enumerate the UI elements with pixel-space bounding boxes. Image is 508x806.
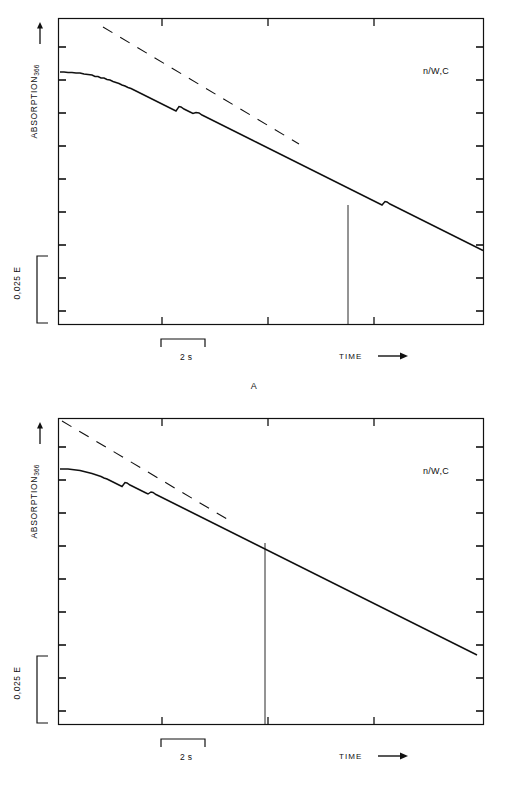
panel-letter-a: A [0, 381, 508, 391]
panel-a-plot [0, 0, 508, 403]
y-scale-bracket [34, 255, 50, 325]
sample-annotation: n/W,C [423, 466, 449, 476]
decay-trace-curve [60, 72, 483, 251]
y-scale-bracket [34, 655, 50, 725]
y-scale-bar-label: 0,025 E [12, 655, 22, 711]
x-axis-label: TIME [339, 752, 363, 761]
y-scale-bar-label: 0,025 E [12, 255, 22, 311]
decay-trace-curve [60, 469, 477, 655]
x-scale-bar-label: 2 s [180, 752, 192, 762]
y-axis-label-subscript: 366 [33, 64, 40, 75]
y-axis-label-subscript: 366 [33, 464, 40, 475]
y-axis-label-text: ABSORPTION [29, 76, 39, 139]
x-scale-bracket [160, 338, 206, 348]
plot-frame [59, 419, 484, 725]
x-scale-bar-label: 2 s [180, 352, 192, 362]
panel-a: ABSORPTION366 0,025 E 2 s TIME n/W,C A [0, 0, 508, 403]
bottom-axis-ticks [162, 317, 374, 325]
y-axis-label: ABSORPTION366 [29, 42, 40, 162]
x-axis-right-arrow-icon [378, 750, 408, 762]
tangent-dashed-line [103, 27, 299, 144]
left-axis-ticks [59, 447, 67, 711]
top-axis-ticks [162, 19, 374, 27]
bottom-axis-ticks [162, 717, 374, 725]
y-axis-label-text: ABSORPTION [29, 476, 39, 539]
panel-b-plot [0, 400, 508, 803]
plot-frame [59, 19, 484, 325]
panel-b: ABSORPTION366 0,025 E 2 s TIME n/W,C B [0, 400, 508, 803]
sample-annotation: n/W,C [423, 66, 449, 76]
right-axis-ticks [476, 447, 484, 711]
top-axis-ticks [162, 419, 374, 427]
right-axis-ticks [476, 47, 484, 311]
tangent-dashed-line [62, 421, 232, 522]
left-axis-ticks [59, 47, 67, 311]
x-axis-label: TIME [339, 352, 363, 361]
x-scale-bracket [160, 738, 206, 748]
x-axis-right-arrow-icon [378, 350, 408, 362]
figure-container: ABSORPTION366 0,025 E 2 s TIME n/W,C A [0, 0, 508, 806]
y-axis-label: ABSORPTION366 [29, 442, 40, 562]
